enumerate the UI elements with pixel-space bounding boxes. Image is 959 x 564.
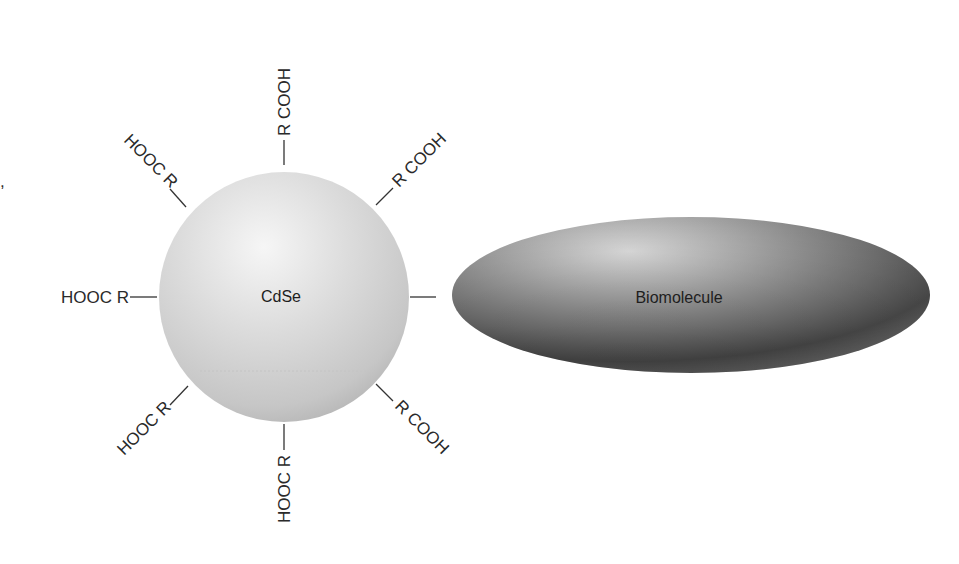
biomolecule-label: Biomolecule xyxy=(635,289,722,306)
stray-mark: , xyxy=(0,172,5,191)
cdse-biomolecule-conjugation-diagram: , CdSe Biomolecule R COOH R COOH R COOH … xyxy=(0,0,959,564)
ligand-top-left: HOOC R xyxy=(120,130,186,207)
ligand-bond xyxy=(170,189,186,207)
ligand-top-right: R COOH xyxy=(376,129,450,205)
ligand-bond xyxy=(376,188,393,205)
ligand-label: HOOC R xyxy=(275,455,294,523)
ligand-label: R COOH xyxy=(388,129,450,191)
ligand-left: HOOC R xyxy=(61,288,157,307)
biomolecule: Biomolecule xyxy=(452,217,930,373)
ligand-label: R COOH xyxy=(391,396,453,458)
ligand-bond xyxy=(376,384,393,401)
ligand-bond xyxy=(170,386,188,405)
ligand-top: R COOH xyxy=(275,68,294,165)
nanoparticle-label: CdSe xyxy=(261,288,301,305)
ligand-label: HOOC R xyxy=(113,397,175,459)
ligand-label: R COOH xyxy=(275,68,294,136)
ligand-bottom: HOOC R xyxy=(275,424,294,523)
ligand-bottom-left: HOOC R xyxy=(113,386,188,459)
ligand-label: HOOC R xyxy=(120,130,182,192)
cdse-nanoparticle: CdSe xyxy=(159,172,409,422)
ligand-bottom-right: R COOH xyxy=(376,384,453,458)
ligand-label: HOOC R xyxy=(61,288,129,307)
